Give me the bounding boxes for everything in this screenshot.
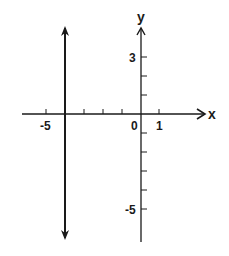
- y-tick-label-3: 3: [129, 51, 136, 65]
- x-axis-label: x: [208, 106, 216, 122]
- line-x-equals-neg4: [61, 26, 69, 240]
- x-axis: x -5 0 1: [22, 106, 216, 133]
- coordinate-plane: x -5 0 1 y 3 -5: [0, 0, 229, 256]
- y-tick-label-neg5: -5: [125, 203, 136, 217]
- y-axis-label: y: [137, 9, 145, 25]
- y-axis-ticks: [141, 57, 147, 209]
- x-axis-ticks: [46, 109, 159, 114]
- x-tick-label-1: 1: [156, 119, 163, 133]
- x-tick-label-neg5: -5: [40, 119, 51, 133]
- x-tick-label-0: 0: [131, 119, 138, 133]
